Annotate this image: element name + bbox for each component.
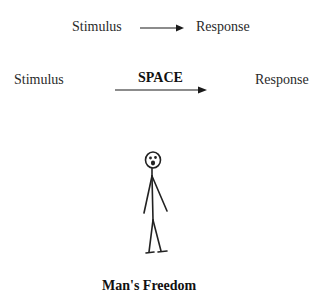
stick-figure-icon: [144, 152, 167, 253]
row1-arrow-icon: [140, 25, 184, 32]
row2-arrow-icon: [115, 87, 207, 94]
